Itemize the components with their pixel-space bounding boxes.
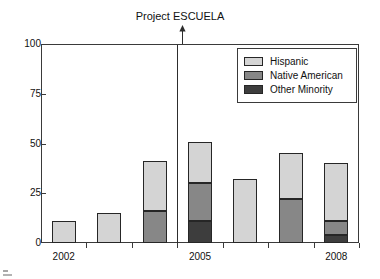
legend-item: Other Minority [244,83,350,96]
legend-label: Hispanic [270,56,308,67]
x-tick-mark [314,243,315,248]
event-marker-line [177,45,178,243]
bar-2002 [52,0,76,243]
x-tick-label: 2005 [175,251,225,262]
bar-segment-native-american [143,211,167,243]
y-tick-label: 75 [7,89,41,99]
bar-segment-native-american [279,199,303,243]
x-tick-mark [177,243,178,248]
legend-swatch-icon [244,57,263,66]
x-tick-label: 2008 [311,251,361,262]
bar-segment-hispanic [324,163,348,221]
bar-2007 [279,0,303,243]
legend-label: Native American [270,70,343,81]
legend-swatch-icon [244,85,263,94]
scan-artifact [3,270,15,277]
legend-swatch-icon [244,71,263,80]
x-tick-mark [359,243,360,248]
stacked-bar-chart: Project ESCUELA 0255075100 200220052008 … [0,0,380,279]
bar-segment-other-minority [324,235,348,243]
bar-segment-hispanic [52,221,76,243]
y-tick-label: 50 [7,139,41,149]
bar-2003 [97,0,121,243]
bar-segment-other-minority [188,221,212,243]
y-tick-label: 100 [7,39,41,49]
y-axis: 0255075100 [0,0,41,279]
bar-segment-hispanic [233,179,257,243]
bar-segment-native-american [188,183,212,221]
bar-segment-hispanic [279,153,303,199]
x-tick-mark [268,243,269,248]
bar-segment-hispanic [143,161,167,211]
legend-item: Native American [244,69,350,82]
x-tick-label: 2002 [39,251,89,262]
legend-label: Other Minority [270,84,333,95]
bar-2008 [324,0,348,243]
bar-segment-hispanic [97,213,121,243]
annotation-label-project-escuela: Project ESCUELA [110,10,250,23]
y-tick-label: 25 [7,188,41,198]
x-tick-mark [86,243,87,248]
bar-2004 [143,0,167,243]
x-tick-mark [132,243,133,248]
y-tick-mark [41,94,46,95]
chart-legend: HispanicNative AmericanOther Minority [237,48,357,103]
y-tick-label: 0 [7,238,41,248]
bar-segment-hispanic [188,142,212,184]
x-tick-mark [223,243,224,248]
bar-segment-native-american [324,221,348,235]
down-arrow-icon [178,25,187,45]
y-tick-mark [41,193,46,194]
bar-2005 [188,0,212,243]
y-tick-mark [41,144,46,145]
legend-item: Hispanic [244,55,350,68]
bar-2006 [233,0,257,243]
